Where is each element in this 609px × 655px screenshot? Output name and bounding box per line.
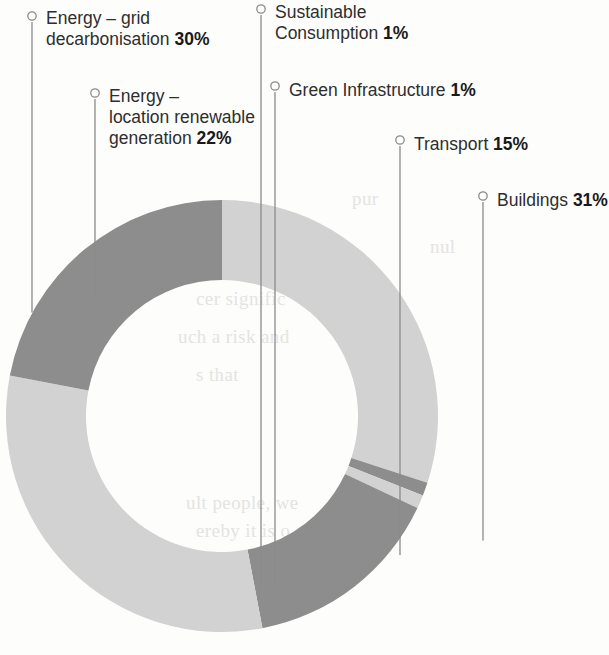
donut-slice [247, 474, 417, 628]
callout-value: 1% [450, 80, 475, 100]
callout-line: Sustainable [275, 2, 408, 23]
callout-buildings: Buildings 31% [497, 190, 608, 211]
callout-line: decarbonisation 30% [46, 29, 209, 50]
callout-line: Consumption 1% [275, 23, 408, 44]
callout-value: 1% [383, 23, 408, 43]
callout-value: 31% [573, 190, 608, 210]
leader-endpoint-sustainable-consumption [257, 5, 265, 13]
callout-value: 30% [174, 29, 209, 49]
leader-endpoint-energy-location-renewable [91, 89, 99, 97]
callout-line: Energy – grid [46, 8, 209, 29]
callout-text: decarbonisation [46, 29, 174, 49]
callout-text: Green Infrastructure [289, 80, 450, 100]
donut-slice [6, 376, 262, 632]
callout-value: 22% [197, 128, 232, 148]
callout-line: location renewable [109, 107, 255, 128]
callout-text: Transport [414, 134, 493, 154]
callout-line: Buildings 31% [497, 190, 608, 211]
leader-endpoint-energy-grid-decarbonisation [28, 12, 36, 20]
donut-slice [10, 200, 222, 391]
callout-line: generation 22% [109, 128, 255, 149]
donut-slice-group [6, 200, 438, 632]
leader-endpoint-green-infrastructure [271, 82, 279, 90]
callout-text: Buildings [497, 190, 573, 210]
callout-line: Transport 15% [414, 134, 528, 155]
callout-green-infrastructure: Green Infrastructure 1% [289, 80, 476, 101]
callout-energy-grid-decarbonisation: Energy – grid decarbonisation 30% [46, 8, 209, 50]
callout-text: Consumption [275, 23, 383, 43]
callout-transport: Transport 15% [414, 134, 528, 155]
callout-text: generation [109, 128, 197, 148]
callout-value: 15% [493, 134, 528, 154]
donut-slice [222, 200, 438, 483]
leader-endpoint-buildings [479, 192, 487, 200]
leader-endpoint-transport [396, 136, 404, 144]
callout-energy-location-renewable-generation: Energy – location renewable generation 2… [109, 86, 255, 149]
chart-page: pur the nul cer signific uch a risk and … [0, 0, 609, 655]
callout-sustainable-consumption: Sustainable Consumption 1% [275, 2, 408, 44]
callout-line: Energy – [109, 86, 255, 107]
callout-line: Green Infrastructure 1% [289, 80, 476, 101]
